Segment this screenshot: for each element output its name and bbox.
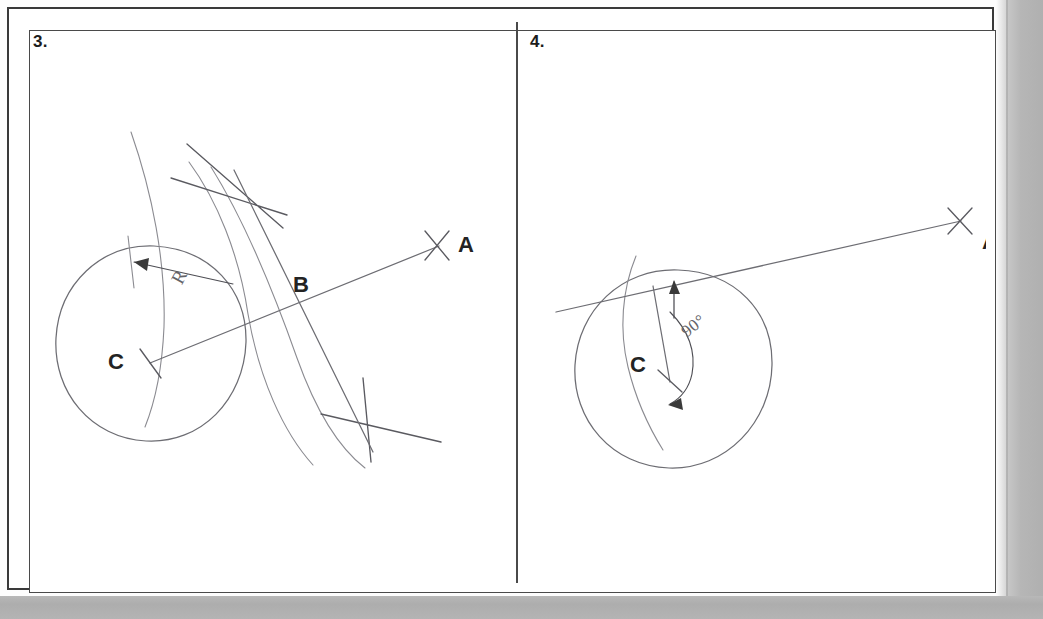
point-c-tick [658,370,682,392]
radius-to-tangency [653,286,670,382]
point-c-label: C [108,349,124,375]
point-a-marker [425,231,449,260]
perpendicular-bisector [234,170,373,452]
scanner-bed-right-edge [1006,0,1043,619]
radius-arrow-head [134,258,149,271]
point-a-label: A [982,229,986,255]
point-c-tick [140,349,161,378]
arc-cross-upper [171,144,287,228]
point-a-marker [948,208,972,234]
tangent-line-to-a [556,221,961,312]
scanned-page: 3. [0,0,1043,619]
point-a-label: A [458,232,474,258]
scanner-bed-bottom-edge [0,596,1043,619]
page-shadow-gradient [996,0,1008,600]
panel-4-drawing [518,22,986,583]
radius-reference-mark [128,236,134,288]
panel-3: 3. [21,22,516,583]
perpendicular-arrow-head [669,280,680,294]
line-c-to-a [150,246,439,363]
construction-arc-from-c [131,132,164,427]
construction-arc-from-a-left [189,162,313,465]
panel-3-drawing [21,22,516,583]
arc-cross-lower [321,378,441,462]
point-c-label: C [630,352,646,378]
panel-4: 4. A C 90° [518,22,986,583]
construction-arc-from-a-right [211,167,365,468]
point-b-label: B [293,272,309,298]
